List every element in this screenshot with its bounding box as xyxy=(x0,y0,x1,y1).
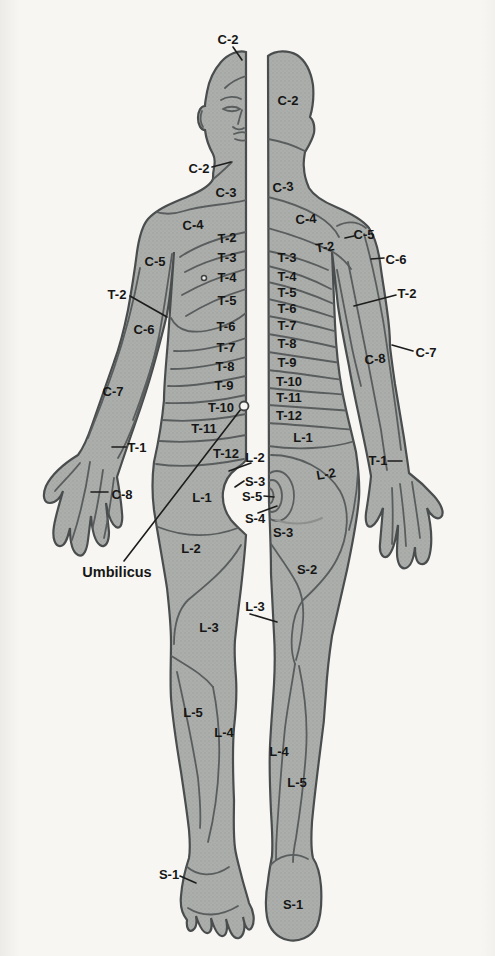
anterior-body-silhouette xyxy=(44,51,254,938)
umbilicus-marker xyxy=(240,402,249,411)
posterior-body-silhouette xyxy=(266,51,443,940)
nipple-marker xyxy=(202,276,207,281)
dermatome-chart: C-2C-2C-3C-4T-2T-3C-5T-4T-5T-2T-6C-6T-7T… xyxy=(0,0,495,956)
leader-lines xyxy=(91,47,413,883)
dermatome-diagram-svg xyxy=(0,0,495,956)
